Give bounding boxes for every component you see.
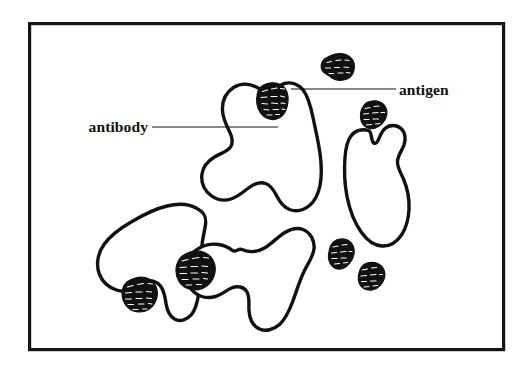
figure-canvas: antibody antigen <box>0 0 529 366</box>
antigen-bound-top <box>257 83 288 120</box>
antigen-bound-lower-left <box>122 277 157 312</box>
antigen-label: antigen <box>399 81 449 98</box>
antibody-antigen-figure: antibody antigen <box>0 0 529 366</box>
antibody-label: antibody <box>89 118 149 135</box>
antigen-bound-lower-center <box>176 251 215 290</box>
